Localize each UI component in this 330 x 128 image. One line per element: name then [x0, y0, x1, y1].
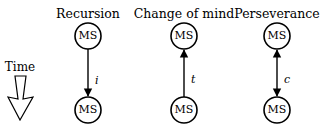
node-label: MS [268, 29, 287, 42]
node-label: MS [79, 103, 98, 116]
recursion-edge-label: i [95, 74, 99, 87]
change-of-mind-title: Change of mind [134, 6, 235, 21]
perseverance-title: Perseverance [234, 6, 319, 21]
time-arrow-icon [8, 76, 33, 120]
node-label: MS [175, 103, 194, 116]
node-label: MS [268, 103, 287, 116]
perseverance-edge-label: c [284, 73, 290, 86]
node-label: MS [175, 29, 194, 42]
recursion-title: Recursion [56, 6, 120, 21]
change-edge-label: t [191, 73, 195, 86]
node-label: MS [79, 29, 98, 42]
time-label: Time [5, 60, 35, 74]
